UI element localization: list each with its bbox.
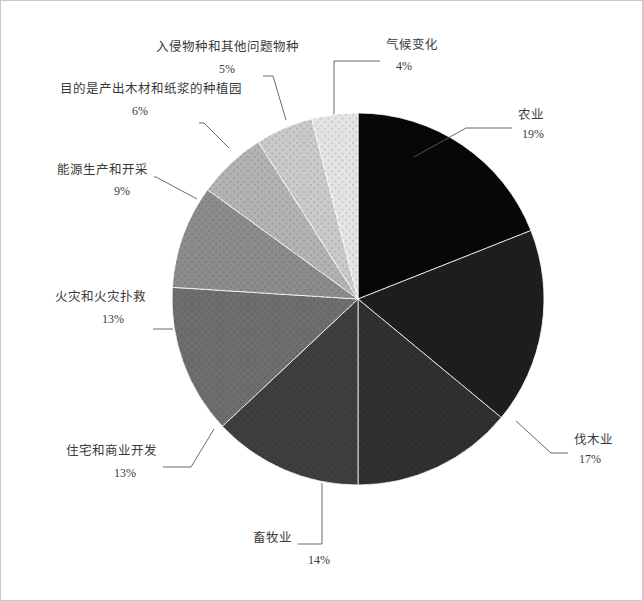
leader-line-livestock bbox=[298, 483, 322, 544]
slice-label-livestock: 畜牧业 bbox=[253, 530, 292, 545]
slice-label-invasive-and-problematic-species: 入侵物种和其他问题物种 bbox=[156, 39, 299, 54]
slice-percent-energy-production-and-mining: 9% bbox=[114, 184, 130, 198]
leader-line-climate-change bbox=[334, 61, 380, 114]
slice-percent-livestock: 14% bbox=[308, 553, 330, 567]
slice-label-plantations-for-wood-and-pulp: 目的是产出木材和纸浆的种植园 bbox=[60, 81, 242, 96]
slice-label-logging: 伐木业 bbox=[574, 433, 613, 447]
slice-label-agriculture: 农业 bbox=[518, 108, 544, 122]
slice-label-residential-commercial-development: 住宅和商业开发 bbox=[66, 443, 157, 458]
leader-line-invasive-and-problematic-species bbox=[263, 76, 286, 120]
slice-label-climate-change: 气候变化 bbox=[386, 37, 438, 52]
slice-percent-agriculture: 19% bbox=[522, 127, 544, 141]
slice-label-fire-and-fire-suppression: 火灾和火灾扑救 bbox=[55, 289, 146, 304]
leader-line-logging bbox=[516, 421, 568, 453]
slice-percent-logging: 17% bbox=[579, 452, 601, 466]
pie-texture-overlay bbox=[172, 113, 544, 485]
slice-percent-invasive-and-problematic-species: 5% bbox=[219, 62, 235, 76]
slice-label-energy-production-and-mining: 能源生产和开采 bbox=[57, 163, 148, 177]
slice-percent-plantations-for-wood-and-pulp: 6% bbox=[132, 104, 148, 118]
leader-line-residential-commercial-development bbox=[163, 429, 214, 467]
chart-page: 农业19%伐木业17%畜牧业14%住宅和商业开发13%火灾和火灾扑救13%能源生… bbox=[0, 0, 643, 601]
pie-chart: 农业19%伐木业17%畜牧业14%住宅和商业开发13%火灾和火灾扑救13%能源生… bbox=[1, 1, 643, 601]
leader-line-energy-production-and-mining bbox=[154, 177, 197, 199]
slice-percent-residential-commercial-development: 13% bbox=[114, 466, 136, 480]
leader-line-plantations-for-wood-and-pulp bbox=[199, 123, 229, 148]
slice-percent-fire-and-fire-suppression: 13% bbox=[102, 312, 124, 326]
slice-percent-climate-change: 4% bbox=[396, 59, 412, 73]
